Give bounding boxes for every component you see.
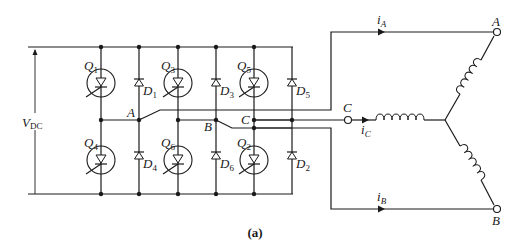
transistor-q4: [86, 146, 115, 174]
arrowhead-icon: [33, 49, 38, 55]
terminal-b-label: B: [492, 213, 500, 228]
figure-caption: (a): [247, 225, 262, 240]
transistor-q2: [239, 146, 268, 174]
label-q4: Q4: [84, 135, 98, 152]
label-q2: Q2: [237, 135, 251, 152]
inductor-b-icon: [460, 143, 486, 180]
current-label-ib: iB: [377, 189, 387, 206]
terminal-a: [494, 29, 501, 36]
star-load: [352, 36, 494, 205]
label-q1: Q1: [84, 58, 98, 75]
terminal-a-label: A: [491, 14, 500, 29]
terminal-b: [494, 206, 501, 213]
label-q3: Q3: [161, 58, 175, 75]
phase-a-wire: [139, 32, 497, 120]
terminal-c: [345, 117, 352, 124]
current-arrow-ib-icon: [378, 206, 385, 213]
label-q5: Q5: [237, 58, 251, 75]
node-c-label: C: [241, 112, 250, 127]
terminal-c-label: C: [343, 100, 352, 115]
label-d5: D5: [295, 83, 310, 100]
inductor-a-icon: [455, 57, 481, 94]
transistor-q6: [163, 146, 192, 174]
label-d1: D1: [142, 83, 157, 100]
label-d6: D6: [219, 156, 234, 173]
transistor-q1: [86, 69, 115, 97]
node-a-label: A: [126, 105, 135, 120]
vdc-label: VDC: [22, 115, 42, 131]
current-label-ia: iA: [377, 12, 387, 29]
node-b-label: B: [204, 119, 212, 134]
three-phase-inverter-diagram: VDC: [0, 0, 526, 251]
current-arrow-ia-icon: [378, 29, 385, 36]
label-d2: D2: [295, 156, 310, 173]
label-d3: D3: [219, 83, 234, 100]
transistor-q3: [163, 69, 192, 97]
transistor-q5: [239, 69, 268, 97]
inductor-c-icon: [376, 114, 424, 120]
label-q6: Q6: [161, 135, 175, 152]
label-d4: D4: [142, 156, 157, 173]
current-label-ic: iC: [361, 122, 372, 139]
